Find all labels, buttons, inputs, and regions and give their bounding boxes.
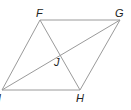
label-J: J (53, 56, 60, 68)
diagonal-IG (2, 20, 120, 90)
diagonal-FH (40, 20, 80, 90)
side-IF (2, 20, 40, 90)
vertex-labels: F G H I J (0, 7, 124, 104)
label-G: G (115, 7, 124, 19)
label-F: F (36, 7, 44, 19)
label-I: I (0, 92, 1, 104)
diagonals (2, 20, 120, 90)
label-H: H (76, 92, 84, 104)
parallelogram-diagram: F G H I J (0, 0, 131, 110)
side-GH (80, 20, 120, 90)
